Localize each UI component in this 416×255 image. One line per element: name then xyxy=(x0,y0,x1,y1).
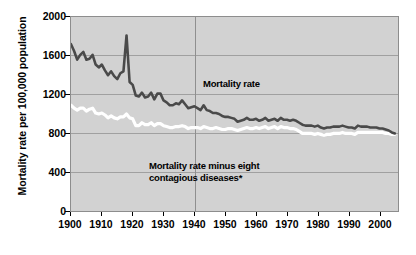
annotation-mortality-rate: Mortality rate xyxy=(203,78,273,90)
y-tick-label-1200: 1200 xyxy=(22,89,66,99)
series-line-minus xyxy=(71,105,395,135)
y-tick-label-800: 800 xyxy=(22,128,66,138)
y-tick-label-400: 400 xyxy=(22,167,66,177)
x-tick-mark-1900 xyxy=(70,212,71,216)
x-tick-mark-1920 xyxy=(132,212,133,216)
x-tick-mark-1960 xyxy=(256,212,257,216)
y-tick-label-0: 0 xyxy=(22,206,66,216)
plot-area: Mortality rate Mortality rate minus eigh… xyxy=(70,16,399,212)
x-tick-mark-1980 xyxy=(318,212,319,216)
x-tick-mark-1990 xyxy=(349,212,350,216)
x-tick-mark-1940 xyxy=(194,212,195,216)
x-tick-mark-1930 xyxy=(163,212,164,216)
y-tick-label-1600: 1600 xyxy=(22,50,66,60)
x-tick-label-2000: 2000 xyxy=(360,219,400,230)
annotation-mortality-rate-minus: Mortality rate minus eight contagious di… xyxy=(149,160,261,183)
x-tick-mark-1970 xyxy=(287,212,288,216)
x-tick-mark-1910 xyxy=(101,212,102,216)
x-tick-mark-1950 xyxy=(225,212,226,216)
y-axis-title: Mortality rate per 100,000 population xyxy=(16,1,28,211)
x-tick-mark-2000 xyxy=(380,212,381,216)
chart-figure: Mortality rate per 100,000 population 20… xyxy=(0,0,416,255)
y-tick-label-2000: 2000 xyxy=(22,11,66,21)
